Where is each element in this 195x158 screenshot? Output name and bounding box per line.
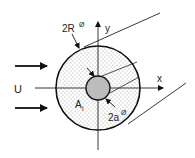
area-label: A: [75, 99, 82, 110]
x-axis-label: x: [157, 73, 162, 84]
outer-diameter-leader: [72, 34, 79, 48]
inner-diameter-symbol: Ø: [121, 109, 127, 116]
outer-diameter-label: 2R: [62, 23, 75, 34]
inner-diameter-label: 2a: [108, 112, 120, 123]
outer-diameter-symbol: Ø: [79, 21, 85, 28]
y-axis-label: y: [105, 23, 110, 34]
inner-circle: [86, 76, 110, 100]
cylinder-diagram: U 2R Ø y x A i 2a Ø: [0, 0, 195, 158]
upper-tangent-line: [84, 13, 160, 47]
flow-velocity-label: U: [14, 83, 22, 95]
